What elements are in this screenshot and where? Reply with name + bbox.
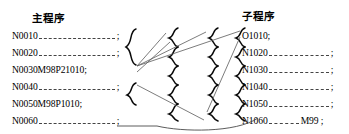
diagram-canvas: 主程序 子程序 N0010 ; N0020 ; N0030M98P21010; … <box>0 0 349 134</box>
brace-column-c <box>236 28 245 121</box>
flow-connectors <box>0 0 349 134</box>
brace-column-b <box>209 28 218 121</box>
brace-left-upper <box>126 29 136 65</box>
call-arrow-6 <box>137 42 170 72</box>
brace-column-a <box>169 28 178 121</box>
return-arrow <box>117 118 258 130</box>
brace-left-lower <box>127 83 136 105</box>
